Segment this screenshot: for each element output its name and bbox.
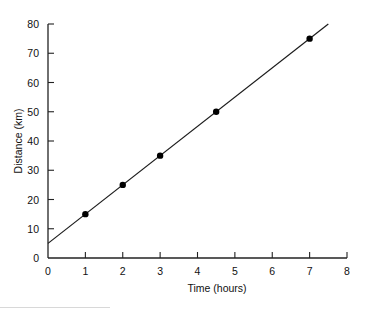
x-tick-label: 0 (45, 265, 51, 277)
x-tick-label: 5 (232, 265, 238, 277)
data-point (213, 109, 219, 115)
x-tick-label: 7 (307, 265, 313, 277)
x-tick-label: 4 (195, 265, 201, 277)
y-tick-label: 70 (27, 47, 39, 59)
y-tick-label: 50 (27, 106, 39, 118)
data-point (157, 152, 163, 158)
x-tick-label: 8 (344, 265, 350, 277)
y-tick-label: 0 (33, 252, 39, 264)
distance-time-chart: 01020304050607080 012345678 Time (hours)… (0, 0, 368, 309)
x-axis-title: Time (hours) (187, 282, 246, 294)
fit-line (48, 24, 328, 243)
x-tick-label: 1 (82, 265, 88, 277)
y-tick-label: 80 (27, 18, 39, 30)
x-axis: 012345678 (45, 252, 350, 277)
data-point (306, 35, 312, 41)
y-axis-title: Distance (km) (12, 109, 24, 174)
y-tick-label: 10 (27, 223, 39, 235)
best-fit-line (48, 24, 328, 243)
x-tick-label: 2 (120, 265, 126, 277)
scan-edge-line (0, 307, 110, 308)
y-tick-label: 20 (27, 194, 39, 206)
x-tick-label: 6 (269, 265, 275, 277)
x-tick-label: 3 (157, 265, 163, 277)
y-tick-label: 30 (27, 164, 39, 176)
data-point (82, 211, 88, 217)
y-axis: 01020304050607080 (27, 18, 54, 264)
data-point (120, 182, 126, 188)
y-tick-label: 60 (27, 77, 39, 89)
chart-canvas: 01020304050607080 012345678 Time (hours)… (0, 0, 368, 309)
y-tick-label: 40 (27, 135, 39, 147)
